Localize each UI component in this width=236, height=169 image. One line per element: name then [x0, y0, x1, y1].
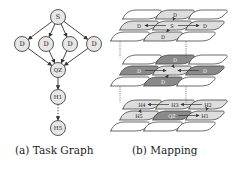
node-h1: H1 [51, 90, 66, 105]
svg-text:H1: H1 [54, 94, 62, 100]
caption-mapping: (b) Mapping [132, 144, 198, 156]
node-s: S [51, 10, 66, 25]
svg-text:D: D [173, 57, 177, 63]
cell-layer-2-r0c0 [122, 55, 161, 64]
svg-text:QZ: QZ [54, 67, 63, 73]
svg-text:D: D [67, 40, 72, 48]
cell-layer-1-r2c0 [110, 32, 149, 41]
edge-d2-qz [49, 51, 55, 63]
edge-s-d3 [61, 24, 67, 37]
svg-text:S: S [56, 13, 60, 21]
node-d2: D [39, 37, 54, 52]
svg-text:S: S [170, 23, 174, 29]
svg-text:D: D [137, 23, 141, 29]
svg-text:D: D [137, 68, 141, 74]
node-d1: D [15, 37, 30, 52]
node-qz: QZ [51, 63, 66, 78]
svg-text:D: D [91, 40, 96, 48]
svg-text:D: D [161, 79, 165, 85]
svg-text:QZ: QZ [168, 113, 176, 119]
cell-layer-3-r2c0 [110, 122, 149, 131]
svg-text:D: D [161, 34, 165, 40]
svg-text:D: D [203, 68, 207, 74]
svg-text:H4: H4 [138, 102, 146, 108]
caption-task-graph: (a) Task Graph [15, 144, 93, 156]
svg-text:D: D [43, 40, 48, 48]
node-d4: D [87, 37, 102, 52]
layer-2: DDDD [110, 55, 227, 86]
node-d3: D [63, 37, 78, 52]
svg-text:H1: H1 [201, 113, 209, 119]
mapping-arrow [167, 30, 168, 32]
svg-text:D: D [19, 40, 24, 48]
svg-text:D: D [203, 23, 207, 29]
svg-text:H3: H3 [171, 102, 179, 108]
svg-text:D: D [173, 12, 177, 18]
mapping-diagram: DDSDDDDDDH4H3H2H5QZH1 [110, 10, 227, 131]
edge-d3-qz [61, 51, 67, 63]
svg-text:H5: H5 [135, 113, 143, 119]
layer-1: DDSDD [110, 10, 227, 41]
svg-text:H5: H5 [54, 125, 63, 131]
task-graph: SDDDDQZH1H5 [15, 10, 102, 136]
svg-text:H2: H2 [204, 102, 212, 108]
mapping-arrow [167, 75, 168, 77]
cell-layer-2-r2c0 [110, 77, 149, 86]
edge-s-d2 [49, 24, 55, 37]
node-h5: H5 [51, 121, 66, 136]
cell-layer-1-r0c0 [122, 10, 161, 19]
